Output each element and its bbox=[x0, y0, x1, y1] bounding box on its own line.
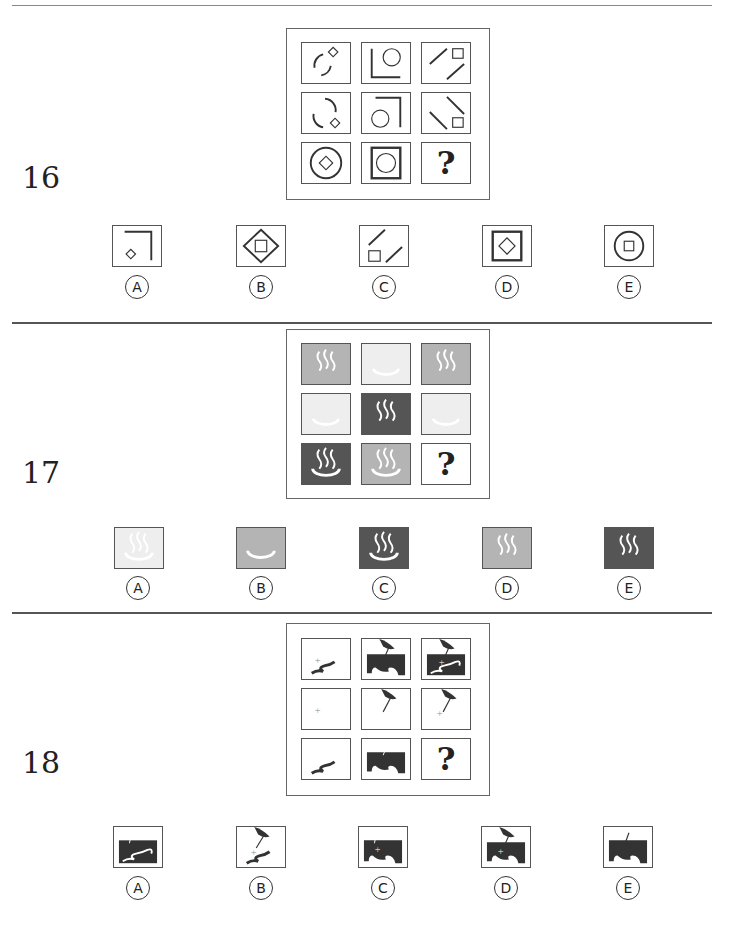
option-label-b: B bbox=[249, 275, 273, 299]
svg-text:+: + bbox=[438, 658, 444, 667]
missing-cell: ? bbox=[421, 142, 471, 184]
cell-r2c1: + bbox=[301, 688, 351, 730]
option-label-d: D bbox=[494, 876, 518, 900]
option-c[interactable] bbox=[359, 225, 409, 267]
hot-spring-icon bbox=[360, 528, 408, 568]
corner-circle-icon bbox=[362, 43, 410, 83]
option-b[interactable]: + bbox=[236, 826, 286, 868]
cross-icon: + bbox=[302, 689, 350, 729]
question-number-18: 18 bbox=[22, 745, 60, 780]
cell-r1c3: + bbox=[421, 638, 471, 680]
basin-icon bbox=[302, 394, 350, 434]
pin-block-icon bbox=[362, 639, 410, 679]
cell-r1c2 bbox=[361, 638, 411, 680]
hot-spring-icon bbox=[362, 444, 410, 484]
section-divider-1 bbox=[12, 322, 712, 324]
option-label-e: E bbox=[616, 876, 640, 900]
cell-r3c1 bbox=[301, 738, 351, 780]
cell-r2c3 bbox=[421, 92, 471, 134]
corner-circle-icon bbox=[362, 93, 410, 133]
basin-icon bbox=[422, 394, 470, 434]
option-label-a: A bbox=[126, 876, 150, 900]
cell-r2c1 bbox=[301, 393, 351, 435]
puzzle-grid-16: ? bbox=[286, 28, 490, 200]
cell-r2c3 bbox=[421, 393, 471, 435]
cell-r2c3: + bbox=[421, 688, 471, 730]
option-label-b: B bbox=[249, 876, 273, 900]
question-number-17: 17 bbox=[22, 455, 60, 490]
pin-icon bbox=[362, 689, 410, 729]
diagonals-square-icon bbox=[360, 226, 408, 266]
option-c[interactable] bbox=[359, 527, 409, 569]
option-e[interactable] bbox=[603, 826, 653, 868]
river-icon bbox=[302, 739, 350, 779]
option-e[interactable] bbox=[604, 225, 654, 267]
option-b[interactable] bbox=[236, 225, 286, 267]
cell-r1c1 bbox=[301, 343, 351, 385]
cell-r2c2 bbox=[361, 393, 411, 435]
cell-r3c1 bbox=[301, 443, 351, 485]
svg-text:+: + bbox=[315, 656, 321, 665]
svg-text:+: + bbox=[315, 706, 321, 715]
cell-r1c1: + bbox=[301, 638, 351, 680]
hot-spring-icon bbox=[302, 444, 350, 484]
block-river-icon bbox=[114, 827, 162, 867]
cell-r1c3 bbox=[421, 343, 471, 385]
arcs-diamond-icon bbox=[302, 93, 350, 133]
circle-diamond-icon bbox=[302, 143, 350, 183]
basin-icon bbox=[362, 344, 410, 384]
puzzle-grid-18: + + + + ? bbox=[286, 623, 490, 796]
option-label-d: D bbox=[495, 576, 519, 600]
hot-spring-icon bbox=[115, 528, 163, 568]
square-circle-icon bbox=[362, 143, 410, 183]
svg-text:+: + bbox=[251, 848, 257, 857]
cell-r3c2 bbox=[361, 738, 411, 780]
option-label-e: E bbox=[617, 576, 641, 600]
cell-r3c2 bbox=[361, 142, 411, 184]
river-cross-icon: + bbox=[302, 639, 350, 679]
corner-diamond-icon bbox=[113, 226, 161, 266]
section-divider-2 bbox=[12, 612, 712, 614]
option-a[interactable] bbox=[113, 826, 163, 868]
cell-r1c2 bbox=[361, 343, 411, 385]
top-rule bbox=[12, 5, 712, 6]
steam-icon bbox=[422, 344, 470, 384]
question-number-16: 16 bbox=[22, 160, 60, 195]
steam-icon bbox=[362, 394, 410, 434]
steam-icon bbox=[605, 528, 653, 568]
cell-r3c2 bbox=[361, 443, 411, 485]
option-label-b: B bbox=[249, 576, 273, 600]
pin-block-cross-icon: + bbox=[482, 827, 530, 867]
arcs-diamond-icon bbox=[302, 43, 350, 83]
svg-text:+: + bbox=[497, 847, 503, 856]
option-b[interactable] bbox=[236, 527, 286, 569]
cell-r3c1 bbox=[301, 142, 351, 184]
option-d[interactable] bbox=[482, 527, 532, 569]
cell-r2c1 bbox=[301, 92, 351, 134]
steam-icon bbox=[302, 344, 350, 384]
svg-text:+: + bbox=[374, 845, 380, 854]
option-label-e: E bbox=[617, 275, 641, 299]
cell-r1c3 bbox=[421, 42, 471, 84]
block-stick-icon bbox=[604, 827, 652, 867]
circle-square-icon bbox=[605, 226, 653, 266]
svg-text:+: + bbox=[436, 709, 442, 718]
option-e[interactable] bbox=[604, 527, 654, 569]
block-icon bbox=[362, 739, 410, 779]
option-label-a: A bbox=[126, 576, 150, 600]
option-a[interactable] bbox=[114, 527, 164, 569]
diagonals-square-icon bbox=[422, 43, 470, 83]
option-d[interactable] bbox=[482, 225, 532, 267]
square-diamond-icon bbox=[483, 226, 531, 266]
diamond-square-icon bbox=[237, 226, 285, 266]
missing-cell: ? bbox=[421, 443, 471, 485]
pin-cross-icon: + bbox=[422, 689, 470, 729]
cell-r1c1 bbox=[301, 42, 351, 84]
option-c[interactable]: + bbox=[358, 826, 408, 868]
cell-r1c2 bbox=[361, 42, 411, 84]
option-d[interactable]: + bbox=[481, 826, 531, 868]
pin-river-icon: + bbox=[237, 827, 285, 867]
cell-r2c2 bbox=[361, 92, 411, 134]
option-a[interactable] bbox=[112, 225, 162, 267]
option-label-c: C bbox=[372, 275, 396, 299]
